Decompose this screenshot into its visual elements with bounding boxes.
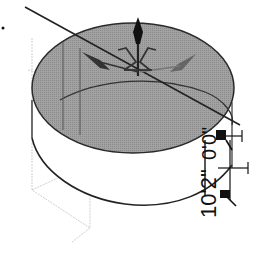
origin-point	[2, 27, 5, 30]
3d-viewport[interactable]: 10'2" 0'0"	[0, 0, 268, 268]
dimension-height-label[interactable]: 10'2"	[196, 169, 222, 218]
scene-canvas[interactable]	[0, 0, 268, 268]
dimension-offset-label[interactable]: 0'0"	[198, 127, 221, 160]
